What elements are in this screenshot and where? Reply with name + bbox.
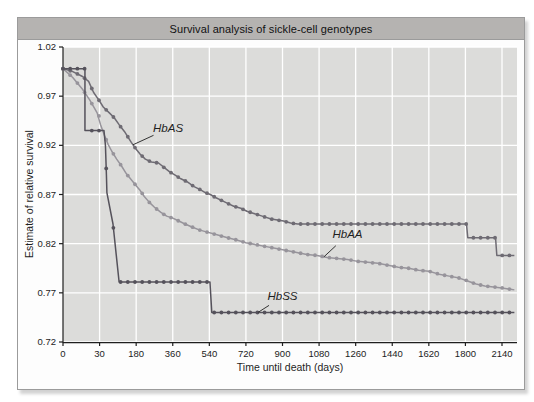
svg-text:2140: 2140 (491, 348, 512, 359)
svg-text:0.72: 0.72 (38, 336, 57, 347)
svg-text:180: 180 (128, 348, 144, 359)
survival-plot: 1.020.970.920.870.820.770.72030180360540… (18, 40, 522, 388)
chart-title-bar: Survival analysis of sickle-cell genotyp… (18, 18, 524, 40)
svg-text:1.02: 1.02 (38, 41, 57, 52)
survival-chart-figure: Survival analysis of sickle-cell genotyp… (17, 17, 525, 390)
svg-text:0.87: 0.87 (38, 189, 57, 200)
series-label-hbss: HbSS (267, 290, 297, 302)
svg-text:1080: 1080 (309, 348, 330, 359)
y-axis-label: Estimate of relative survival (23, 43, 37, 346)
svg-text:0.97: 0.97 (38, 90, 57, 101)
svg-text:360: 360 (165, 348, 181, 359)
svg-text:0.92: 0.92 (38, 139, 57, 150)
svg-text:720: 720 (238, 348, 254, 359)
svg-text:0.82: 0.82 (38, 238, 57, 249)
series-label-hbaa: HbAA (333, 228, 363, 240)
svg-text:0.77: 0.77 (38, 287, 57, 298)
svg-text:1260: 1260 (345, 348, 366, 359)
page: { "chart_data": { "type": "line", "title… (0, 0, 534, 402)
svg-text:0: 0 (60, 348, 65, 359)
svg-text:1800: 1800 (455, 348, 476, 359)
chart-area: 1.020.970.920.870.820.770.72030180360540… (18, 40, 524, 389)
svg-text:1620: 1620 (418, 348, 439, 359)
chart-title: Survival analysis of sickle-cell genotyp… (170, 23, 373, 35)
svg-text:540: 540 (201, 348, 217, 359)
series-label-hbas: HbAS (153, 122, 183, 134)
svg-text:1440: 1440 (382, 348, 403, 359)
x-axis-label: Time until death (days) (190, 361, 390, 373)
svg-text:30: 30 (94, 348, 105, 359)
svg-text:900: 900 (275, 348, 291, 359)
